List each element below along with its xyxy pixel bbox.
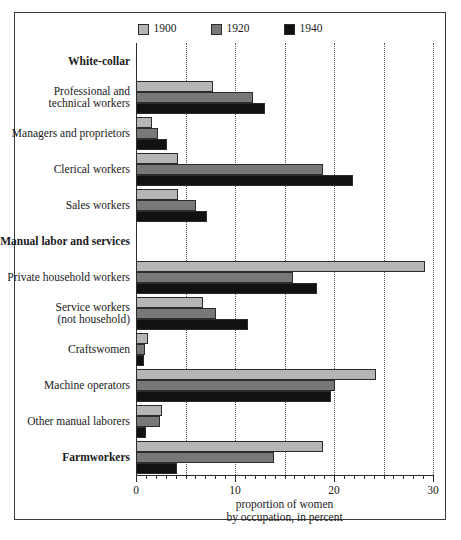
bar-1940 (136, 463, 177, 474)
x-tick-9 (225, 475, 226, 479)
x-tick-15 (285, 475, 286, 479)
bar-1940 (136, 427, 146, 438)
category-label: Machine operators (44, 379, 130, 392)
bar-group: Sales workers (136, 187, 433, 223)
x-tick-29 (423, 475, 424, 479)
bar-1920 (136, 380, 335, 391)
x-tick-11 (245, 475, 246, 479)
bar-1900 (136, 333, 148, 344)
bar-1940 (136, 319, 248, 330)
x-tick-4 (176, 475, 177, 479)
x-tick-12 (255, 475, 256, 479)
x-tick-26 (393, 475, 394, 479)
category-label: Manual labor and services (0, 235, 130, 248)
bar-1920 (136, 416, 160, 427)
bar-1920 (136, 452, 274, 463)
category-label-line: White-collar (68, 55, 130, 68)
x-tick-25 (384, 475, 385, 479)
chart-figure: 190019201940 White-collarProfessional an… (14, 12, 446, 520)
category-label-line: Managers and proprietors (12, 127, 130, 140)
bar-1900 (136, 153, 178, 164)
x-tick-label-10: 10 (229, 484, 241, 496)
category-label-line: Sales workers (66, 199, 130, 212)
legend-label-1920: 1920 (227, 23, 250, 35)
bar-1940 (136, 391, 331, 402)
x-tick-3 (166, 475, 167, 479)
x-tick-0 (136, 475, 137, 482)
bar-1900 (136, 441, 323, 452)
x-tick-22 (354, 475, 355, 479)
bar-1920 (136, 308, 216, 319)
category-label: White-collar (68, 55, 130, 68)
bar-group: Professional andtechnical workers (136, 79, 433, 115)
legend-label-1900: 1900 (154, 23, 177, 35)
category-label: Managers and proprietors (12, 127, 130, 140)
x-tick-23 (364, 475, 365, 479)
bar-group: Machine operators (136, 367, 433, 403)
bar-1920 (136, 128, 158, 139)
x-tick-label-30: 30 (427, 484, 439, 496)
category-label-line: Clerical workers (54, 163, 130, 176)
bar-1900 (136, 81, 213, 92)
x-tick-21 (344, 475, 345, 479)
x-tick-6 (195, 475, 196, 479)
legend-entry-1920: 1920 (211, 23, 250, 35)
category-label-line: technical workers (49, 97, 130, 110)
x-tick-28 (413, 475, 414, 479)
legend-swatch-icon-1940 (284, 24, 295, 35)
bar-1940 (136, 103, 265, 114)
x-axis-title-line2: by occupation, in percent (136, 511, 433, 524)
x-tick-1 (146, 475, 147, 479)
bar-group: Clerical workers (136, 151, 433, 187)
category-label: Service workers(not household) (56, 301, 130, 326)
x-tick-27 (403, 475, 404, 479)
category-label-line: Manual labor and services (0, 235, 130, 248)
bar-group: Farmworkers (136, 439, 433, 475)
x-tick-2 (156, 475, 157, 479)
legend-swatch-icon-1920 (211, 24, 222, 35)
x-tick-14 (275, 475, 276, 479)
category-label: Professional andtechnical workers (49, 85, 130, 110)
x-tick-13 (265, 475, 266, 479)
category-label: Private household workers (7, 271, 130, 284)
bar-group: White-collar (136, 43, 433, 79)
bar-1920 (136, 344, 145, 355)
x-tick-5 (186, 475, 187, 479)
bar-1920 (136, 272, 293, 283)
bar-1940 (136, 175, 353, 186)
category-label-line: Craftswomen (68, 343, 130, 356)
gridline-30 (433, 43, 434, 475)
bar-group: Other manual laborers (136, 403, 433, 439)
x-tick-20 (334, 475, 335, 482)
x-axis-title: proportion of women by occupation, in pe… (136, 498, 433, 524)
bar-group: Service workers(not household) (136, 295, 433, 331)
bar-group: Craftswomen (136, 331, 433, 367)
x-tick-8 (215, 475, 216, 479)
x-tick-17 (304, 475, 305, 479)
x-tick-19 (324, 475, 325, 479)
x-tick-10 (235, 475, 236, 482)
category-label-line: Professional and (49, 85, 130, 98)
category-label: Farmworkers (62, 451, 130, 464)
category-label-line: Machine operators (44, 379, 130, 392)
legend-swatch-icon-1900 (138, 24, 149, 35)
bar-group: Private household workers (136, 259, 433, 295)
category-label: Other manual laborers (27, 415, 130, 428)
bar-1940 (136, 355, 144, 366)
category-label: Sales workers (66, 199, 130, 212)
category-label: Clerical workers (54, 163, 130, 176)
x-tick-7 (205, 475, 206, 479)
legend-entry-1940: 1940 (284, 23, 323, 35)
x-tick-18 (314, 475, 315, 479)
bar-1900 (136, 117, 152, 128)
bar-1900 (136, 261, 425, 272)
bar-group: Managers and proprietors (136, 115, 433, 151)
plot-area: White-collarProfessional andtechnical wo… (136, 43, 433, 475)
bar-1920 (136, 200, 196, 211)
legend-entry-1900: 1900 (138, 23, 177, 35)
category-label-line: Service workers (56, 301, 130, 314)
category-label-line: (not household) (56, 313, 130, 326)
chart-legend: 190019201940 (15, 19, 445, 39)
legend-label-1940: 1940 (300, 23, 323, 35)
bar-1940 (136, 139, 167, 150)
